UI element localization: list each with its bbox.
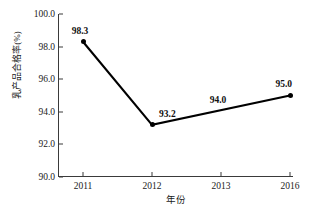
x-tick-mark [83, 172, 84, 176]
data-point-label: 93.2 [159, 109, 176, 119]
data-point-label: 95.0 [275, 79, 292, 89]
x-tick-label: 2016 [281, 181, 300, 191]
data-point-label: 98.3 [72, 26, 89, 36]
y-tick-label: 98.0 [38, 42, 55, 52]
y-tick-label: 96.0 [38, 74, 55, 84]
data-point-marker [81, 39, 86, 44]
y-tick-label: 90.0 [38, 172, 55, 182]
series-line [59, 14, 294, 177]
x-tick-mark [290, 172, 291, 176]
x-axis-title: 年份 [58, 192, 293, 206]
y-axis-title: 乳产品合格率(%) [9, 10, 25, 120]
y-tick-label: 92.0 [38, 139, 55, 149]
x-tick-label: 2013 [212, 181, 231, 191]
y-tick-mark [59, 79, 63, 80]
data-point-marker [288, 93, 293, 98]
plot-area: 98.393.294.095.0 [59, 14, 293, 176]
plot-frame: 98.393.294.095.0 100.098.096.094.092.090… [58, 14, 293, 177]
x-tick-label: 2011 [74, 181, 93, 191]
y-tick-mark [59, 177, 63, 178]
y-tick-mark [59, 46, 63, 47]
y-tick-mark [59, 144, 63, 145]
line-chart: 乳产品合格率(%) 98.393.294.095.0 100.098.096.0… [0, 0, 316, 217]
x-tick-label: 2012 [143, 181, 162, 191]
y-tick-label: 100.0 [34, 9, 55, 19]
y-tick-mark [59, 14, 63, 15]
x-tick-mark [152, 172, 153, 176]
data-point-marker [150, 122, 155, 127]
data-point-label: 94.0 [210, 95, 227, 105]
x-tick-mark [221, 172, 222, 176]
y-tick-label: 94.0 [38, 107, 55, 117]
y-tick-mark [59, 111, 63, 112]
